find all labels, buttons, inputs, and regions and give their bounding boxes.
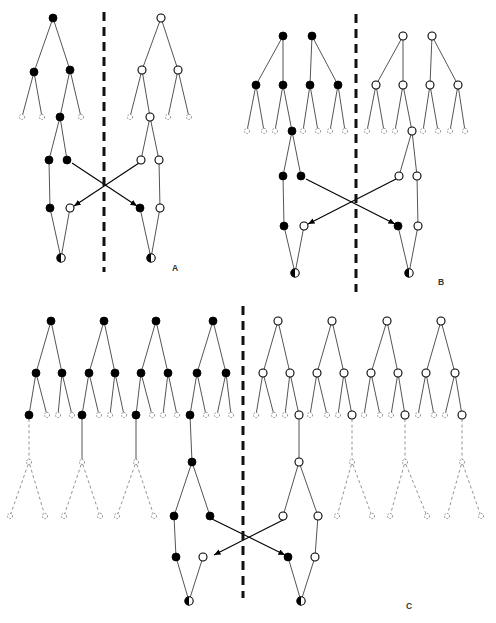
edge-solid — [377, 89, 384, 128]
node-open-C-R-r2 — [328, 317, 336, 325]
arrows-layer — [72, 163, 396, 555]
edges-layer — [11, 22, 480, 597]
node-filled-A-L-1b — [66, 66, 74, 74]
node-open-C-R-2p — [458, 411, 466, 419]
edge-solid — [169, 377, 177, 413]
edge-solid — [330, 89, 337, 128]
edge-solid — [214, 325, 225, 369]
edge-solid — [450, 89, 457, 128]
node-dashed-B-R-2c — [392, 128, 397, 133]
edge-solid — [190, 419, 192, 458]
edge-solid — [423, 89, 429, 128]
edge-solid — [418, 377, 425, 413]
edge-dashed — [448, 465, 462, 514]
node-filled-C-L-4g — [170, 512, 178, 520]
node-open-C-R-5b — [311, 553, 319, 561]
edge-solid — [296, 230, 303, 269]
node-open-C-R-2h — [348, 411, 356, 419]
panel-label-b: B — [438, 277, 444, 287]
node-dashed-A-L-2d — [78, 114, 83, 119]
edge-solid — [23, 76, 33, 115]
edge-solid — [339, 89, 345, 128]
node-dashed-C-L-4f — [151, 513, 156, 518]
node-filled-B-R-4a — [394, 222, 402, 230]
edge-solid — [427, 325, 440, 369]
node-dashed-B-R-2h — [462, 128, 467, 133]
edge-solid — [151, 121, 158, 156]
edge-solid — [284, 466, 298, 512]
edge-solid — [391, 377, 397, 412]
node-filled-A-L-2c — [56, 113, 64, 121]
node-filled-B-L-r1 — [279, 32, 287, 40]
edge-dashed — [391, 465, 405, 514]
edge-solid — [162, 22, 177, 66]
edge-solid — [58, 377, 61, 412]
edge-solid — [143, 74, 150, 113]
node-open-C-R-3a — [295, 458, 303, 466]
node-open-C-R-1b — [286, 369, 294, 377]
edge-solid — [285, 377, 289, 412]
edge-solid — [310, 377, 316, 412]
node-open-C-R-2l — [401, 411, 409, 419]
node-open-C-R-r3 — [383, 317, 391, 325]
edge-solid — [314, 40, 336, 82]
edge-solid — [293, 135, 300, 172]
edge-solid — [303, 89, 309, 128]
edge-solid — [90, 377, 98, 413]
node-open-A-R-3b — [155, 156, 163, 164]
node-filled-C-L-2m — [186, 411, 194, 419]
node-open-C-L-5b — [199, 553, 207, 561]
node-dashed-C-R-4c — [334, 513, 339, 518]
edge-solid — [198, 325, 212, 369]
node-dashed-B-R-2a — [364, 128, 369, 133]
edge-solid — [110, 377, 114, 412]
edge-solid — [50, 121, 59, 156]
node-open-A-R-r — [157, 14, 165, 22]
edge-solid — [372, 325, 386, 369]
migration-arrow-a-2 — [74, 163, 139, 206]
node-filled-B-L-3b — [297, 172, 305, 180]
node-open-B-R-1a — [372, 81, 380, 89]
edge-solid — [247, 89, 255, 129]
node-filled-C-L-3d — [188, 458, 196, 466]
edge-solid — [49, 164, 50, 204]
edge-solid — [35, 22, 51, 68]
node-filled-B-L-1a — [252, 81, 260, 89]
node-dashed-C-L-2g — [107, 412, 112, 417]
node-filled-B-L-r2 — [308, 32, 316, 40]
node-dashed-B-L-2g — [327, 128, 332, 133]
edge-solid — [284, 135, 291, 172]
edge-solid — [311, 89, 318, 128]
node-filled-C-L-1e — [137, 369, 145, 377]
edge-solid — [289, 561, 300, 597]
node-dashed-C-L-3a — [26, 459, 31, 464]
node-dashed-C-R-4e — [387, 513, 392, 518]
edge-solid — [291, 377, 298, 411]
node-filled-C-L-2e — [78, 411, 86, 419]
node-open-B-R-4b — [414, 222, 422, 230]
node-open-B-R-3b — [413, 172, 421, 180]
node-filled-C-L-r4 — [209, 317, 217, 325]
node-dashed-B-L-2e — [300, 128, 305, 133]
node-filled-C-L-r2 — [100, 317, 108, 325]
edge-solid — [456, 377, 462, 411]
edge-dashed — [65, 464, 81, 513]
edge-solid — [285, 230, 294, 269]
node-open-C-R-1a — [259, 369, 267, 377]
edge-solid — [430, 40, 432, 81]
edge-solid — [427, 377, 434, 413]
node-open-B-R-3a — [395, 172, 403, 180]
node-filled-A-L-r — [49, 14, 57, 22]
nodes-layer — [7, 14, 483, 605]
node-open-C-R-2d — [295, 411, 303, 419]
node-dashed-C-L-2n — [203, 412, 208, 417]
edge-solid — [157, 325, 167, 369]
node-filled-B-L-1c — [306, 81, 314, 89]
panel-label-c: C — [406, 601, 412, 611]
node-dashed-C-R-2m — [415, 412, 420, 417]
node-dashed-C-R-2e — [307, 412, 312, 417]
node-filled-C-L-r1 — [47, 317, 55, 325]
node-filled-B-L-1d — [334, 81, 342, 89]
edge-solid — [131, 74, 141, 115]
node-dashed-C-L-4b — [42, 513, 47, 518]
